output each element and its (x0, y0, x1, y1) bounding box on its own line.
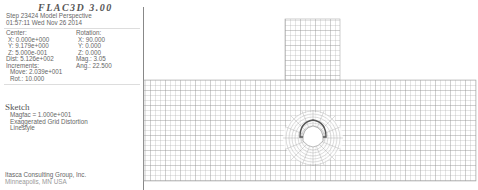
model-grid-plot[interactable] (0, 0, 478, 190)
upper-mesh-column (285, 19, 340, 80)
